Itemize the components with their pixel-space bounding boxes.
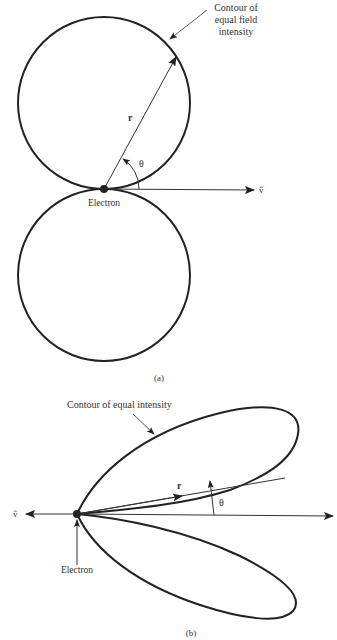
r-vector-a [104,57,176,189]
r-label-b: r [177,480,182,491]
velocity-arrow-a [104,189,254,190]
electron-dot-b [73,510,81,518]
contour-label-b: Contour of equal intensity [67,399,172,410]
caption-b: (b) [186,628,197,638]
v-label-a: v̂ [259,185,264,195]
contour-pointer-a [170,10,207,39]
electron-dot-a [100,185,108,193]
caption-a: (a) [154,373,164,383]
radiation-pattern-diagram: Contour of equal field intensity r θ v̂ … [0,0,337,640]
electron-label-b: Electron [61,565,93,575]
v-label-b: v̂ [13,509,18,519]
panel-a: Contour of equal field intensity r θ v̂ … [18,2,264,383]
r-label-a: r [128,112,133,123]
panel-b: Contour of equal intensity r θ v̂ Electr… [13,399,333,638]
contour-label-a-line2: equal field [215,14,257,25]
upper-intensity-lobe [77,407,298,514]
contour-pointer-b [133,414,154,434]
upper-field-contour [18,17,190,189]
contour-label-a-line1: Contour of [214,2,258,13]
theta-label-a: θ [139,158,144,169]
electron-label-a: Electron [88,198,120,208]
theta-label-b: θ [219,497,224,508]
lower-field-contour [18,189,190,361]
lower-intensity-lobe [77,514,296,619]
horizontal-axis-b [77,514,333,516]
theta-indicator-b [210,481,214,515]
contour-label-a-line3: intensity [219,26,253,37]
